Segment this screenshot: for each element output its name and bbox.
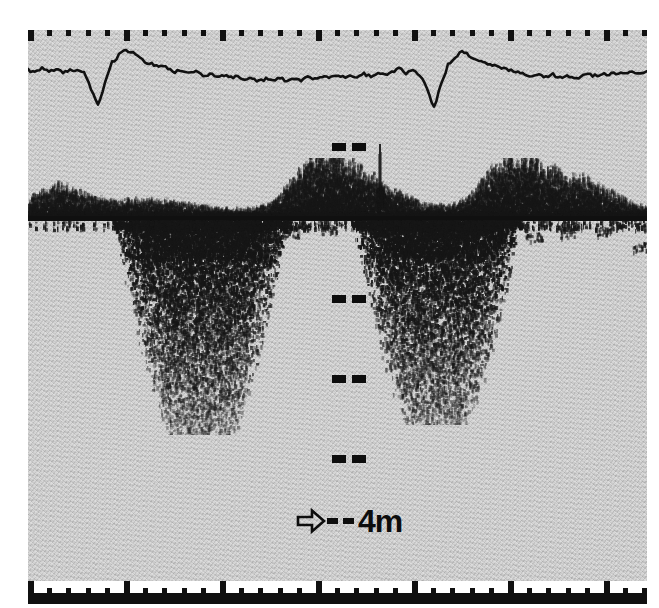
scale-label: 4m [358, 505, 402, 537]
echo-integrator-trace [28, 42, 647, 117]
ruler-tick-minor [431, 588, 436, 593]
ruler-tick-minor [297, 588, 302, 593]
ruler-tick-minor [278, 30, 283, 36]
depth-dash-a [332, 375, 346, 383]
depth-mark-2 [332, 295, 366, 303]
ruler-tick-minor [201, 588, 206, 593]
ruler-tick-minor [393, 588, 398, 593]
depth-dash-a [332, 295, 346, 303]
ruler-tick-major [220, 581, 226, 593]
ruler-tick-minor [623, 588, 628, 593]
ruler-tick-minor [450, 588, 455, 593]
bottom-solid-bar [28, 593, 647, 604]
depth-dash-b [352, 375, 366, 383]
scale-dash [327, 518, 338, 524]
ruler-tick-major [316, 581, 322, 593]
ruler-tick-minor [258, 588, 263, 593]
scale-dash [343, 518, 354, 524]
bottom-tick-ruler [28, 581, 647, 607]
ruler-tick-minor [162, 30, 167, 36]
ruler-tick-minor [527, 30, 532, 36]
ruler-tick-minor [431, 30, 436, 36]
ruler-tick-major [28, 30, 34, 41]
ruler-tick-minor [642, 30, 647, 36]
fish-school-left [106, 220, 296, 435]
ruler-tick-minor [354, 588, 359, 593]
ruler-tick-minor [182, 588, 187, 593]
ruler-tick-minor [374, 588, 379, 593]
ruler-tick-major [412, 581, 418, 593]
depth-dash-b [352, 143, 366, 151]
ruler-tick-minor [47, 30, 52, 36]
surface-echo-line [28, 216, 647, 221]
depth-mark-4 [332, 455, 366, 463]
ruler-tick-minor [450, 30, 455, 36]
top-tick-ruler [28, 30, 647, 42]
ruler-tick-minor [642, 588, 647, 593]
ruler-tick-minor [258, 30, 263, 36]
ruler-tick-minor [182, 30, 187, 36]
ruler-tick-major [124, 30, 130, 41]
ruler-tick-major [28, 581, 34, 593]
ruler-tick-minor [86, 30, 91, 36]
scale-annotation: 4m [296, 500, 402, 542]
ruler-tick-major [508, 30, 514, 41]
pelagic-scattering-layer [28, 158, 647, 218]
ruler-tick-minor [566, 30, 571, 36]
ruler-tick-minor [105, 588, 110, 593]
fish-school-right [346, 220, 526, 425]
ruler-tick-minor [546, 588, 551, 593]
ruler-tick-minor [143, 30, 148, 36]
ruler-tick-minor [527, 588, 532, 593]
depth-dash-b [352, 455, 366, 463]
ruler-tick-minor [623, 30, 628, 36]
right-arrow-outline-icon [296, 506, 326, 536]
vertical-spike-artifact [372, 144, 388, 220]
ruler-tick-minor [201, 30, 206, 36]
ruler-tick-minor [278, 588, 283, 593]
ruler-tick-minor [374, 30, 379, 36]
ruler-tick-minor [566, 588, 571, 593]
ruler-tick-minor [393, 30, 398, 36]
ruler-tick-minor [489, 588, 494, 593]
ruler-tick-minor [585, 30, 590, 36]
ruler-tick-major [508, 581, 514, 593]
ruler-tick-minor [239, 588, 244, 593]
ruler-tick-minor [239, 30, 244, 36]
ruler-tick-major [604, 30, 610, 41]
ruler-tick-minor [585, 588, 590, 593]
ruler-tick-minor [162, 588, 167, 593]
depth-mark-1 [332, 143, 366, 151]
ruler-tick-minor [489, 30, 494, 36]
ruler-tick-major [604, 581, 610, 593]
ruler-tick-major [316, 30, 322, 41]
ruler-tick-minor [105, 30, 110, 36]
depth-dash-a [332, 143, 346, 151]
depth-dash-a [332, 455, 346, 463]
ruler-tick-minor [335, 30, 340, 36]
depth-mark-3 [332, 375, 366, 383]
scattered-targets [28, 220, 647, 280]
ruler-tick-major [412, 30, 418, 41]
ruler-tick-minor [546, 30, 551, 36]
ruler-tick-minor [86, 588, 91, 593]
ruler-tick-minor [66, 30, 71, 36]
ruler-tick-major [124, 581, 130, 593]
depth-dash-b [352, 295, 366, 303]
ruler-tick-minor [66, 588, 71, 593]
ruler-tick-minor [297, 30, 302, 36]
chart-paper [28, 30, 647, 581]
ruler-tick-major [220, 30, 226, 41]
scale-dashes [327, 518, 354, 524]
ruler-tick-minor [354, 30, 359, 36]
ruler-tick-minor [335, 588, 340, 593]
echogram-figure: 4m [0, 0, 659, 608]
ruler-tick-minor [470, 30, 475, 36]
ruler-tick-minor [143, 588, 148, 593]
ruler-tick-minor [470, 588, 475, 593]
ruler-tick-minor [47, 588, 52, 593]
